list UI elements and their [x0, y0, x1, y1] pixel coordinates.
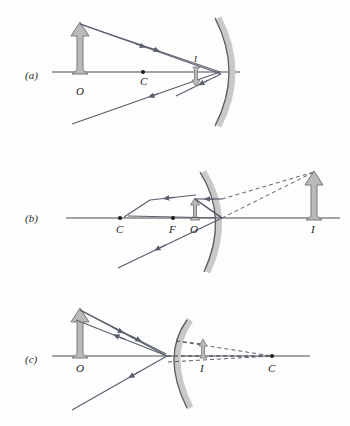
point-label-o-b: O: [190, 223, 198, 235]
point-label-c-b: C: [116, 223, 124, 235]
panel-a-label: (a): [25, 69, 38, 82]
point-label-o-a: O: [76, 85, 84, 97]
point-label-c-a: C: [140, 75, 148, 87]
point-label-o-c: O: [76, 362, 84, 374]
panel-b-label: (b): [25, 212, 38, 225]
point-f-dot-b: [171, 216, 175, 220]
point-c-dot-b: [118, 216, 122, 220]
point-c-dot-a: [141, 70, 145, 74]
point-c-dot-c: [270, 354, 274, 358]
point-label-f-b: F: [168, 223, 176, 235]
ray-diagram-figure: (a) O C I (b): [0, 0, 350, 426]
panel-c-label: (c): [25, 353, 38, 366]
point-label-c-c: C: [268, 362, 276, 374]
